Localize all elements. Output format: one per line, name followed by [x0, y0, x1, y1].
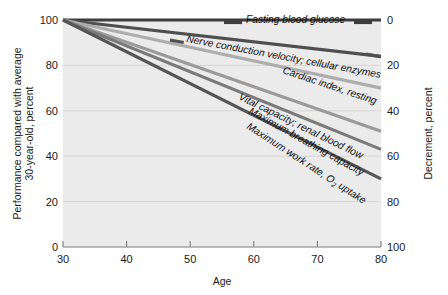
y-tick-right-60: 60	[387, 150, 399, 162]
y-axis-title-left-line2: 30-year-old, percent	[23, 86, 35, 180]
chart-svg: 020406080100 020406080100 304050607080 F…	[0, 0, 448, 295]
y-tick-right-0: 0	[387, 14, 393, 26]
x-tick-40: 40	[120, 253, 132, 265]
x-tick-70: 70	[311, 253, 323, 265]
y-tick-left-100: 100	[40, 14, 58, 26]
chart-figure: 020406080100 020406080100 304050607080 F…	[0, 0, 448, 295]
x-axis-title: Age	[213, 275, 232, 287]
x-axis-tick-labels: 304050607080	[57, 253, 387, 265]
y-axis-left-tick-labels: 020406080100	[40, 14, 58, 253]
y-tick-left-60: 60	[46, 105, 58, 117]
x-tick-30: 30	[57, 253, 69, 265]
y-tick-left-0: 0	[52, 241, 58, 253]
x-tick-60: 60	[248, 253, 260, 265]
x-tick-80: 80	[375, 253, 387, 265]
y-tick-left-20: 20	[46, 196, 58, 208]
y-tick-right-40: 40	[387, 105, 399, 117]
y-tick-right-100: 100	[387, 241, 405, 253]
y-axis-title-right: Decrement, percent	[422, 87, 434, 179]
y-axis-title-left-line1: Performance compared with average	[11, 47, 23, 219]
y-tick-left-80: 80	[46, 59, 58, 71]
y-axis-right-tick-labels: 020406080100	[387, 14, 405, 253]
y-tick-right-80: 80	[387, 196, 399, 208]
y-tick-left-40: 40	[46, 150, 58, 162]
y-tick-right-20: 20	[387, 59, 399, 71]
series-label-0: Fasting blood glucose	[246, 14, 345, 25]
x-tick-50: 50	[184, 253, 196, 265]
